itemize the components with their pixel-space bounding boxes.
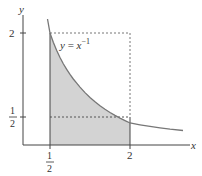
x-axis-label: x [190, 139, 196, 151]
curve-equation-label: y = x−1 [59, 37, 90, 51]
diagram-canvas: y x 2 1 2 1 2 2 y = x−1 [0, 0, 202, 176]
area-under-hyperbola-diagram: y x 2 1 2 1 2 2 y = x−1 [0, 0, 202, 176]
y-tick-label-half-den: 2 [10, 118, 15, 129]
x-tick-label-half-den: 2 [47, 163, 52, 174]
y-axis-label: y [18, 3, 24, 15]
x-tick-label-2: 2 [127, 149, 133, 161]
equation-equals: = [65, 39, 77, 51]
x-tick-label-half-num: 1 [47, 150, 52, 161]
equation-exponent: −1 [82, 37, 91, 46]
y-tick-label-half-num: 1 [10, 105, 15, 116]
y-tick-label-2: 2 [9, 27, 15, 39]
